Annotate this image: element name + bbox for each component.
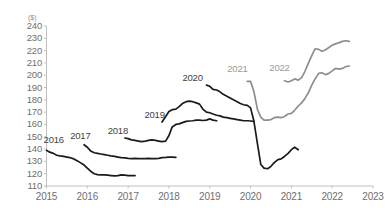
y-tick-label: 230 — [16, 33, 42, 43]
y-tick-label: 200 — [16, 70, 42, 80]
series-line-2018 — [125, 119, 217, 142]
x-tick-label: 2015 — [27, 191, 67, 202]
series-line-2020 — [206, 85, 298, 169]
series-label-2019: 2019 — [144, 110, 164, 120]
chart-series-lines — [47, 41, 350, 176]
x-tick-label: 2016 — [67, 191, 107, 202]
y-tick-label: 130 — [16, 156, 42, 166]
series-label-2018: 2018 — [108, 126, 128, 136]
x-tick-label: 2018 — [149, 191, 189, 202]
y-tick-label: 170 — [16, 107, 42, 117]
x-tick-label: 2017 — [108, 191, 148, 202]
series-label-2021: 2021 — [227, 64, 247, 74]
x-tick-label: 2019 — [190, 191, 230, 202]
series-label-2022: 2022 — [269, 63, 289, 73]
series-line-2021 — [247, 66, 349, 120]
y-tick-label: 140 — [16, 144, 42, 154]
series-line-2017 — [84, 145, 176, 159]
x-tick-label: 2022 — [312, 191, 352, 202]
y-tick-label: 110 — [16, 181, 42, 191]
x-tick-label: 2023 — [353, 191, 388, 202]
series-label-2020: 2020 — [182, 73, 202, 83]
y-tick-label: 160 — [16, 119, 42, 129]
y-tick-label: 220 — [16, 46, 42, 56]
series-label-2016: 2016 — [44, 135, 64, 145]
y-tick-label: 210 — [16, 58, 42, 68]
y-tick-label: 240 — [16, 21, 42, 31]
series-line-2016 — [47, 150, 136, 176]
x-tick-label: 2021 — [271, 191, 311, 202]
x-tick-label: 2020 — [231, 191, 271, 202]
y-tick-label: 180 — [16, 95, 42, 105]
y-tick-label: 150 — [16, 132, 42, 142]
series-label-2017: 2017 — [70, 131, 90, 141]
y-tick-label: 190 — [16, 83, 42, 93]
y-tick-label: 120 — [16, 169, 42, 179]
